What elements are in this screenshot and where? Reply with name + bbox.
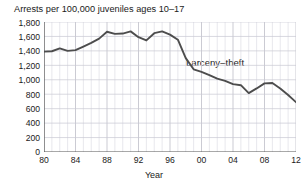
plot-area — [44, 22, 296, 152]
x-tick-label-12: 12 — [284, 156, 308, 165]
y-tick-label-1200: 1,200 — [18, 62, 40, 71]
y-tick-label-600: 600 — [26, 105, 40, 114]
x-tick-label-96: 96 — [158, 156, 182, 165]
x-tick-label-92: 92 — [127, 156, 151, 165]
y-tick-label-800: 800 — [26, 91, 40, 100]
x-axis-title: Year — [0, 171, 308, 180]
x-tick-label-08: 08 — [253, 156, 277, 165]
x-tick-label-84: 84 — [64, 156, 88, 165]
x-tick-label-04: 04 — [221, 156, 245, 165]
chart-figure: Arrests per 100,000 juveniles ages 10–17… — [0, 0, 308, 189]
x-tick-label-80: 80 — [32, 156, 56, 165]
x-tick-label-00: 00 — [190, 156, 214, 165]
y-tick-label-400: 400 — [26, 119, 40, 128]
y-tick-label-1600: 1,600 — [18, 33, 40, 42]
y-tick-label-1800: 1,800 — [18, 19, 40, 28]
plot-svg — [44, 22, 296, 152]
x-tick-label-88: 88 — [95, 156, 119, 165]
y-tick-label-200: 200 — [26, 134, 40, 143]
y-tick-label-1400: 1,400 — [18, 47, 40, 56]
y-tick-label-1000: 1,000 — [18, 76, 40, 85]
chart-title: Arrests per 100,000 juveniles ages 10–17 — [14, 4, 184, 15]
